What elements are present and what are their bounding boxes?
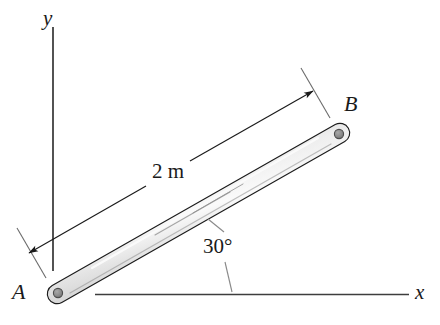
- angle-leader-upper: [208, 219, 224, 232]
- mechanics-figure: y x A B 2 m 30°: [0, 0, 440, 325]
- bar-length-label: 2 m: [152, 161, 184, 182]
- figure-canvas: [0, 0, 440, 325]
- bar-angle-label: 30°: [203, 236, 232, 257]
- angle-leader-lower: [225, 262, 232, 292]
- extension-line-b: [301, 68, 330, 118]
- y-axis-label: y: [43, 8, 52, 29]
- point-label-b: B: [344, 93, 357, 115]
- bar-lower-edge-shade: [70, 144, 331, 293]
- pin-joint-a: [53, 288, 62, 297]
- extension-line-a: [17, 228, 46, 278]
- point-label-a: A: [12, 281, 25, 303]
- x-axis-label: x: [415, 282, 424, 303]
- bar-body-fill: [57, 133, 340, 294]
- pin-joint-b: [334, 129, 343, 138]
